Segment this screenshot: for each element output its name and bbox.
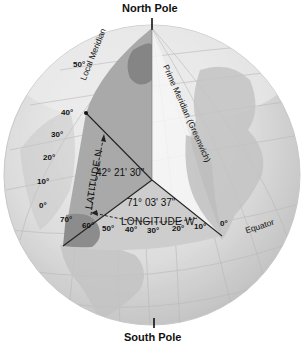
lat-tick-50: 50°	[73, 60, 85, 69]
lon-tick-30: 30°	[147, 226, 159, 235]
south-pole-label: South Pole	[124, 331, 181, 343]
lat-tick-40: 40°	[61, 108, 73, 117]
globe-diagram: North Pole South Pole Local Meridian Pri…	[0, 0, 305, 354]
lat-tick-30: 30°	[51, 130, 63, 139]
latitude-value: 42° 21' 30"	[96, 167, 144, 178]
lat-tick-20: 20°	[43, 153, 55, 162]
location-point	[84, 111, 88, 115]
longitude-value: 71° 03' 37"	[127, 197, 175, 208]
lon-tick-70: 70°	[60, 215, 72, 224]
lon-tick-0: 0°	[220, 219, 228, 228]
north-pole-label: North Pole	[122, 2, 178, 14]
lon-tick-10: 10°	[194, 222, 206, 231]
lat-tick-0: 0°	[39, 201, 47, 210]
lat-tick-10: 10°	[37, 177, 49, 186]
lon-tick-60: 60°	[82, 221, 94, 230]
lon-tick-50: 50°	[102, 224, 114, 233]
lon-tick-40: 40°	[125, 225, 137, 234]
lon-tick-20: 20°	[172, 224, 184, 233]
